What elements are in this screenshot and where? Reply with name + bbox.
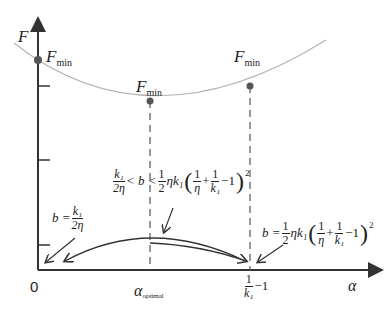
x-axis-label: α <box>348 278 356 294</box>
alpha-optimal-label: αoptimal <box>134 283 164 300</box>
fmin-label-middle: Fmin <box>136 78 162 98</box>
right-equation: b = 12 ηk₁ ( 1η + 1k₁ −1 ) 2 <box>262 220 373 246</box>
fmin-label-left: Fmin <box>46 48 72 68</box>
origin-label: 0 <box>30 279 38 294</box>
pointer-arrow-middle <box>164 208 173 232</box>
fmin-label-right: Fmin <box>234 48 260 68</box>
pointer-arrow-right <box>258 245 283 262</box>
range-arc-right <box>150 243 246 261</box>
point-middle <box>147 98 154 105</box>
middle-inequality: k₁2η < b < 12 ηk₁ ( 1η + 1k₁ −1 ) 2 <box>113 168 249 194</box>
left-equation: b = k₁2η <box>52 205 83 231</box>
range-arc <box>65 238 245 261</box>
point-right <box>247 83 254 90</box>
limit-tick-label: 1k₁ −1 <box>244 273 268 299</box>
point-left <box>34 56 42 64</box>
y-axis-label: F <box>18 28 28 45</box>
